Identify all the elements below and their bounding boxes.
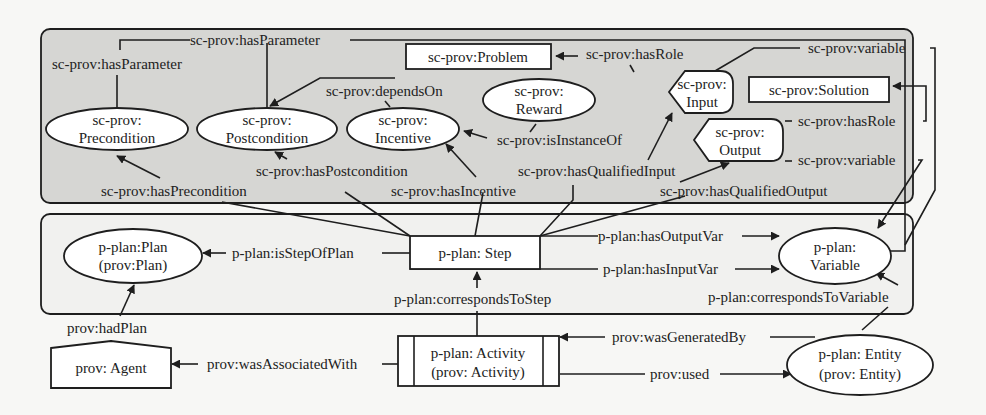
node-problem-label: sc-prov:Problem: [428, 49, 528, 65]
node-output[interactable]: sc-prov: Output: [694, 119, 783, 161]
node-problem[interactable]: sc-prov:Problem: [406, 44, 551, 69]
node-incentive[interactable]: sc-prov: Incentive: [347, 108, 459, 150]
label-has-output-var: p-plan:hasOutputVar: [598, 228, 723, 244]
label-is-step-of-plan: p-plan:isStepOfPlan: [232, 245, 354, 261]
node-plan[interactable]: p-plan:Plan (prov:Plan): [64, 229, 202, 283]
label-has-role-solution: sc-prov:hasRole: [798, 113, 896, 129]
label-has-input-var: p-plan:hasInputVar: [603, 261, 718, 277]
node-activity-line2: (prov: Activity): [431, 364, 525, 381]
node-variable-line2: Variable: [810, 257, 860, 273]
provenance-diagram: sc-prov: Precondition sc-prov: Postcondi…: [0, 0, 986, 415]
node-incentive-line1: sc-prov:: [378, 112, 427, 128]
node-postcondition-line2: Postcondition: [226, 130, 309, 146]
node-reward-line2: Reward: [516, 101, 563, 117]
label-has-precondition: sc-prov:hasPrecondition: [101, 183, 247, 199]
node-activity-line1: p-plan: Activity: [431, 345, 526, 361]
label-has-role-problem: sc-prov:hasRole: [586, 46, 684, 62]
node-entity-line1: p-plan: Entity: [819, 346, 902, 362]
label-corresponds-to-step: p-plan:correspondsToStep: [394, 291, 551, 307]
node-precondition-line1: sc-prov:: [92, 112, 141, 128]
label-has-postcondition: sc-prov:hasPostcondition: [256, 163, 408, 179]
node-postcondition-line1: sc-prov:: [242, 112, 291, 128]
label-has-parameter-left: sc-prov:hasParameter: [52, 56, 182, 72]
label-was-generated-by: prov:wasGeneratedBy: [612, 329, 747, 345]
node-agent-label: prov: Agent: [75, 360, 147, 376]
label-used: prov:used: [650, 366, 710, 382]
node-incentive-line2: Incentive: [375, 130, 431, 146]
node-plan-line1: p-plan:Plan: [98, 239, 168, 255]
node-input-line1: sc-prov:: [677, 76, 726, 92]
node-postcondition[interactable]: sc-prov: Postcondition: [197, 108, 337, 150]
node-output-line1: sc-prov:: [715, 124, 764, 140]
node-reward-line1: sc-prov:: [514, 83, 563, 99]
node-output-line2: Output: [719, 142, 762, 158]
node-entity-line2: (prov: Entity): [819, 366, 901, 383]
node-input-line2: Input: [686, 94, 718, 110]
node-precondition[interactable]: sc-prov: Precondition: [46, 108, 188, 150]
label-is-instance-of: sc-prov:isInstanceOf: [497, 132, 622, 148]
node-variable[interactable]: p-plan: Variable: [779, 228, 891, 284]
node-activity[interactable]: p-plan: Activity (prov: Activity): [398, 336, 559, 386]
label-variable-input: sc-prov:variable: [808, 40, 906, 56]
node-agent[interactable]: prov: Agent: [51, 341, 171, 388]
node-plan-line2: (prov:Plan): [99, 257, 167, 274]
label-depends-on: sc-prov:dependsOn: [326, 83, 443, 99]
label-was-associated-with: prov:wasAssociatedWith: [207, 356, 358, 372]
label-corresponds-to-variable: p-plan:correspondsToVariable: [708, 289, 889, 305]
label-has-parameter-top: sc-prov:hasParameter: [190, 32, 320, 48]
node-entity[interactable]: p-plan: Entity (prov: Entity): [787, 335, 933, 395]
label-has-qualified-output: sc-prov:hasQualifiedOutput: [660, 183, 828, 199]
label-has-incentive: sc-prov:hasIncentive: [391, 183, 516, 199]
node-step-label: p-plan: Step: [439, 245, 512, 261]
node-solution-label: sc-prov:Solution: [769, 82, 869, 98]
node-solution[interactable]: sc-prov:Solution: [749, 77, 889, 102]
node-precondition-line2: Precondition: [79, 130, 156, 146]
label-had-plan: prov:hadPlan: [67, 320, 147, 336]
label-has-qualified-input: sc-prov:hasQualifiedInput: [518, 163, 676, 179]
label-variable-output: sc-prov:variable: [798, 152, 896, 168]
node-variable-line1: p-plan:: [814, 239, 857, 255]
node-reward[interactable]: sc-prov: Reward: [483, 79, 595, 121]
node-step[interactable]: p-plan: Step: [410, 236, 540, 269]
